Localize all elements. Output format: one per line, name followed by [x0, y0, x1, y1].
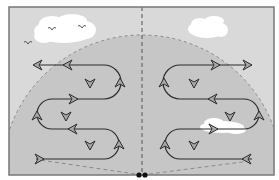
diagram-canvas: [0, 0, 279, 180]
flight-path-diagram: [0, 0, 279, 180]
